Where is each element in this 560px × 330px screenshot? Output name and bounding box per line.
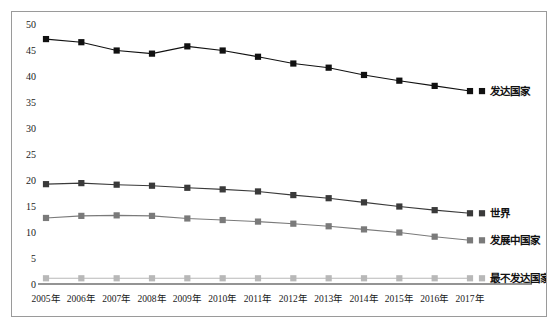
data-point-1-2 [114,182,120,188]
data-point-2-12 [467,237,473,243]
x-axis-tick-3: 2008年 [138,293,167,304]
data-point-0-3 [149,51,155,57]
x-axis-tick-11: 2016年 [420,293,449,304]
legend-marker-3 [479,275,485,281]
data-point-2-11 [432,234,438,240]
data-point-2-5 [220,217,226,223]
legend-label-2: 发展中国家 [489,234,541,246]
data-point-2-3 [149,213,155,219]
series-line-0 [46,39,470,91]
data-point-2-1 [78,213,84,219]
legend-marker-0 [479,88,485,94]
data-point-3-7 [290,275,296,281]
data-point-2-4 [184,215,190,221]
data-point-3-2 [114,275,120,281]
data-point-0-7 [290,60,296,66]
data-point-1-9 [361,199,367,205]
data-point-2-9 [361,226,367,232]
x-axis-tick-7: 2012年 [279,293,308,304]
y-axis-tick-labels: 05101520253035404550 [26,19,36,290]
data-point-1-6 [255,188,261,194]
x-axis-tick-9: 2014年 [350,293,379,304]
y-axis-tick-5: 5 [31,253,36,264]
y-axis-tick-15: 15 [26,201,36,212]
x-axis-tick-12: 2017年 [456,293,485,304]
y-axis-tick-20: 20 [26,175,36,186]
y-axis-tick-50: 50 [26,19,36,30]
data-point-1-4 [184,185,190,191]
data-point-3-8 [326,275,332,281]
data-point-3-12 [467,275,473,281]
data-point-1-7 [290,192,296,198]
data-point-2-7 [290,221,296,227]
data-point-0-4 [184,43,190,49]
data-point-1-11 [432,207,438,213]
y-axis-tick-10: 10 [26,227,36,238]
y-axis-tick-45: 45 [26,45,36,56]
data-point-0-5 [220,47,226,53]
legend-marker-2 [479,237,485,243]
y-axis-tick-40: 40 [26,71,36,82]
data-point-0-2 [114,47,120,53]
data-point-3-0 [43,275,49,281]
data-point-3-3 [149,275,155,281]
data-point-0-6 [255,54,261,60]
data-point-1-1 [78,180,84,186]
series-line-1 [46,183,470,213]
data-point-1-8 [326,195,332,201]
legend-marker-1 [479,210,485,216]
data-point-1-5 [220,186,226,192]
data-point-3-5 [220,275,226,281]
data-point-0-10 [396,78,402,84]
line-chart: 05101520253035404550 2005年2006年2007年2008… [12,12,546,316]
data-point-3-10 [396,275,402,281]
data-point-0-12 [467,88,473,94]
x-axis-tick-2: 2007年 [102,293,131,304]
x-axis-tick-5: 2010年 [208,293,237,304]
data-point-1-3 [149,183,155,189]
data-point-1-12 [467,210,473,216]
data-point-1-0 [43,181,49,187]
data-point-3-9 [361,275,367,281]
data-point-0-1 [78,39,84,45]
legend-label-0: 发达国家 [489,85,531,97]
data-point-0-8 [326,65,332,71]
data-point-3-11 [432,275,438,281]
data-point-0-9 [361,72,367,78]
data-point-2-0 [43,215,49,221]
x-axis-tick-10: 2015年 [385,293,414,304]
x-axis-tick-8: 2013年 [314,293,343,304]
y-axis-tick-30: 30 [26,123,36,134]
data-point-2-10 [396,229,402,235]
data-point-3-6 [255,275,261,281]
y-axis-tick-25: 25 [26,149,36,160]
x-axis-tick-6: 2011年 [244,293,273,304]
data-point-3-4 [184,275,190,281]
series-labels: 发达国家世界发展中国家最不发达国家 [489,85,546,284]
x-axis-tick-0: 2005年 [32,293,61,304]
data-point-3-1 [78,275,84,281]
data-point-2-2 [114,212,120,218]
series-layer [43,36,485,281]
data-point-1-10 [396,203,402,209]
legend-label-3: 最不发达国家 [490,272,546,284]
x-axis-tick-labels: 2005年2006年2007年2008年2009年2010年2011年2012年… [32,293,485,304]
y-axis-tick-35: 35 [26,97,36,108]
y-axis-tick-0: 0 [31,279,36,290]
data-point-0-0 [43,36,49,42]
data-point-2-6 [255,219,261,225]
x-axis-tick-4: 2009年 [173,293,202,304]
chart-frame: 05101520253035404550 2005年2006年2007年2008… [11,11,547,317]
x-axis-tick-1: 2006年 [67,293,96,304]
data-point-0-11 [432,83,438,89]
legend-label-1: 世界 [490,207,511,219]
data-point-2-8 [326,223,332,229]
